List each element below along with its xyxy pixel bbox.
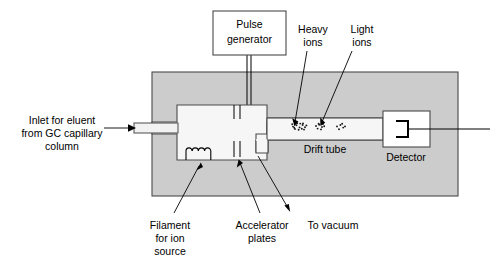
light-ions-label-line1: Light [351, 23, 374, 35]
accelerator-label-line2: plates [248, 232, 276, 244]
pulse-generator-label-line2: generator [227, 33, 272, 45]
light-ions-label-line2: ions [352, 36, 371, 48]
heavy-ions-label-line2: ions [303, 36, 322, 48]
heavy-ions-label-line1: Heavy [298, 23, 329, 35]
drift-tube-bore [267, 118, 383, 140]
detector-label: Detector [386, 151, 426, 163]
inlet-label-line3: column [45, 140, 79, 152]
pulse-generator-label-line1: Pulse [236, 18, 262, 30]
filament-label-line3: source [154, 245, 186, 257]
filament-label-line1: Filament [150, 219, 190, 231]
inlet-label-line1: Inlet for eluent [29, 114, 96, 126]
filament-label-line2: for ion [155, 232, 184, 244]
inlet-label-line2: from GC capillary [21, 127, 103, 139]
vacuum-port-notch [256, 140, 268, 153]
vacuum-leader-arrowhead [284, 204, 290, 212]
drift-tube-label: Drift tube [304, 143, 347, 155]
accelerator-label-line1: Accelerator [235, 219, 289, 231]
tof-mass-spectrometer-figure: Pulse generator [0, 0, 501, 267]
vacuum-label-line1: To vacuum [308, 219, 359, 231]
inlet-capillary-tube [134, 123, 178, 133]
